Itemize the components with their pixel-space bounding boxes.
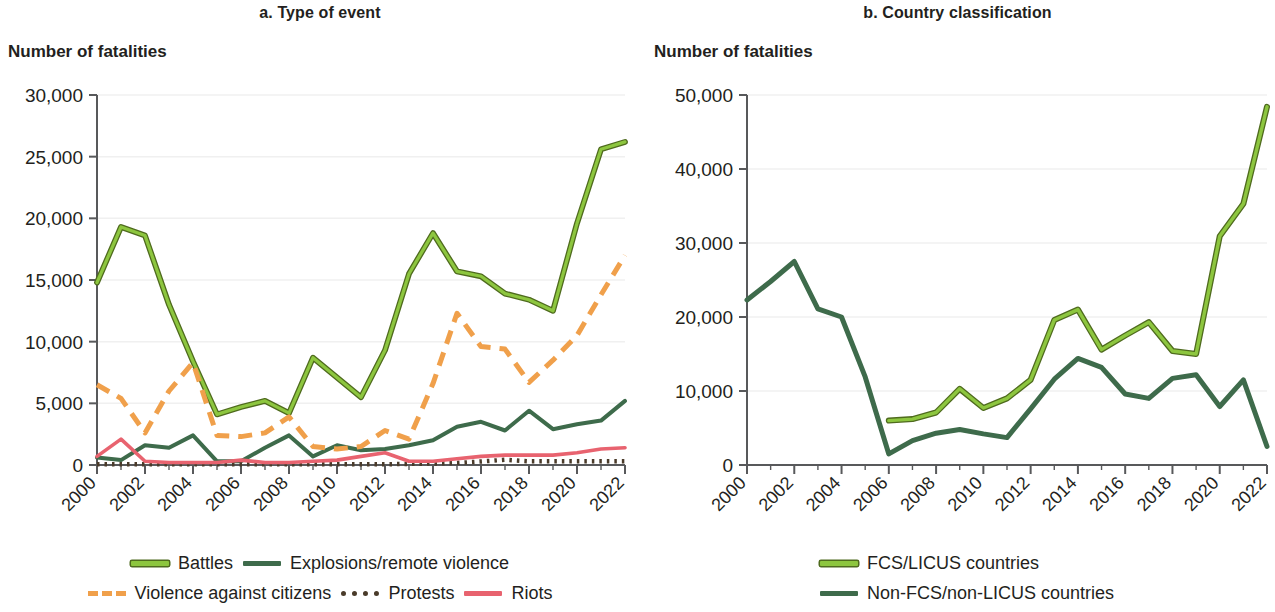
legend-item-explosions-remote-violence[interactable]: Explosions/remote violence: [243, 553, 509, 574]
legend-item-label: Violence against citizens: [135, 583, 332, 604]
x-tick-label: 2008: [249, 473, 291, 515]
x-tick-label: 2022: [1227, 473, 1269, 515]
x-tick-label: 2016: [1086, 473, 1128, 515]
legend-item-label: Battles: [178, 553, 233, 574]
figure: a. Type of event Number of fatalities 05…: [0, 0, 1275, 612]
x-tick-label: 2004: [153, 473, 195, 515]
x-tick-label: 2020: [537, 473, 579, 515]
series-outline-fcs-licus-countries: [889, 107, 1267, 421]
series-line-battles: [97, 142, 625, 415]
x-tick-label: 2016: [441, 473, 483, 515]
y-tick-label: 0: [722, 455, 733, 476]
y-tick-label: 5,000: [35, 393, 83, 414]
x-tick-label: 2008: [896, 473, 938, 515]
y-tick-label: 10,000: [675, 381, 733, 402]
y-tick-label: 30,000: [675, 233, 733, 254]
x-tick-label: 2012: [345, 473, 387, 515]
legend-item-label: Explosions/remote violence: [290, 553, 509, 574]
legend-item-label: Protests: [388, 583, 454, 604]
y-tick-label: 40,000: [675, 159, 733, 180]
panel-b-title: b. Country classification: [640, 4, 1275, 22]
x-tick-label: 2002: [105, 473, 147, 515]
y-tick-label: 30,000: [25, 85, 83, 106]
x-tick-label: 2018: [1133, 473, 1175, 515]
panel-b-chart-svg: 010,00020,00030,00040,00050,000200020022…: [640, 80, 1275, 490]
y-tick-label: 25,000: [25, 147, 83, 168]
panel-a-axis-title: Number of fatalities: [8, 42, 167, 62]
panel-a-legend: BattlesExplosions/remote violence Violen…: [0, 548, 640, 608]
x-tick-label: 2014: [393, 473, 435, 515]
x-tick-label: 2012: [991, 473, 1033, 515]
y-tick-label: 0: [72, 455, 83, 476]
series-line-non-fcs-non-licus-countries: [747, 262, 1267, 454]
panel-b-axis-title: Number of fatalities: [654, 42, 813, 62]
legend-item-fcs-licus-countries[interactable]: FCS/LICUS countries: [820, 553, 1039, 574]
panel-b-plot: 010,00020,00030,00040,00050,000200020022…: [640, 80, 1275, 490]
legend-item-battles[interactable]: Battles: [131, 553, 233, 574]
series-outline-battles: [97, 142, 625, 415]
panel-b-legend: FCS/LICUS countries Non-FCS/non-LICUS co…: [640, 548, 1275, 608]
x-tick-label: 2010: [944, 473, 986, 515]
y-tick-label: 10,000: [25, 332, 83, 353]
x-tick-label: 2010: [297, 473, 339, 515]
panel-country-classification: b. Country classification Number of fata…: [640, 0, 1275, 612]
panel-b-legend-row-1: FCS/LICUS countries: [640, 548, 1275, 578]
series-line-explosions-remote-violence: [97, 401, 625, 461]
legend-item-protests[interactable]: Protests: [341, 583, 454, 604]
series-line-fcs-licus-countries: [889, 107, 1267, 421]
x-tick-label: 2006: [849, 473, 891, 515]
panel-b-legend-row-2: Non-FCS/non-LICUS countries: [640, 578, 1275, 608]
panel-a-legend-row-2: Violence against citizensProtestsRiots: [0, 578, 640, 608]
legend-item-riots[interactable]: Riots: [464, 583, 552, 604]
panel-a-plot: 05,00010,00015,00020,00025,00030,0002000…: [0, 80, 640, 490]
panel-a-title: a. Type of event: [0, 4, 640, 22]
y-tick-label: 50,000: [675, 85, 733, 106]
legend-item-violence-against-citizens[interactable]: Violence against citizens: [88, 583, 332, 604]
x-tick-label: 2004: [802, 473, 844, 515]
x-tick-label: 2002: [755, 473, 797, 515]
x-tick-label: 2018: [489, 473, 531, 515]
panel-type-of-event: a. Type of event Number of fatalities 05…: [0, 0, 640, 612]
x-tick-label: 2006: [201, 473, 243, 515]
x-tick-label: 2014: [1038, 473, 1080, 515]
y-tick-label: 20,000: [25, 208, 83, 229]
x-tick-label: 2020: [1180, 473, 1222, 515]
x-tick-label: 2000: [57, 473, 99, 515]
legend-item-label: FCS/LICUS countries: [867, 553, 1039, 574]
x-tick-label: 2000: [707, 473, 749, 515]
y-tick-label: 15,000: [25, 270, 83, 291]
legend-item-label: Non-FCS/non-LICUS countries: [867, 583, 1114, 604]
panel-a-chart-svg: 05,00010,00015,00020,00025,00030,0002000…: [0, 80, 640, 490]
series-line-violence-against-citizens: [97, 255, 625, 449]
legend-item-non-fcs-non-licus-countries[interactable]: Non-FCS/non-LICUS countries: [820, 583, 1114, 604]
x-tick-label: 2022: [585, 473, 627, 515]
y-tick-label: 20,000: [675, 307, 733, 328]
panel-a-legend-row-1: BattlesExplosions/remote violence: [0, 548, 640, 578]
legend-item-label: Riots: [511, 583, 552, 604]
